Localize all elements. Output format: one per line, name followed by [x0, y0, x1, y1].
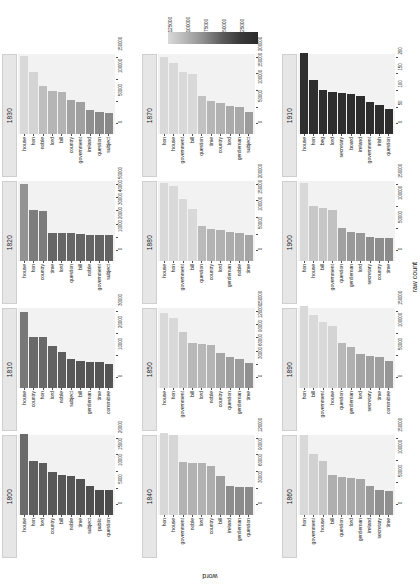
bar[interactable]	[319, 461, 327, 515]
bar[interactable]	[86, 486, 94, 515]
bar[interactable]	[207, 101, 215, 134]
bar[interactable]	[29, 337, 37, 388]
bar[interactable]	[385, 109, 393, 134]
bar[interactable]	[328, 92, 336, 134]
bar[interactable]	[198, 96, 206, 134]
bar[interactable]	[86, 235, 94, 261]
bar[interactable]	[356, 96, 364, 134]
bar[interactable]	[375, 105, 383, 134]
bar[interactable]	[309, 315, 317, 388]
bar[interactable]	[245, 235, 253, 261]
bar[interactable]	[338, 93, 346, 134]
bar[interactable]	[76, 102, 84, 134]
bar[interactable]	[48, 346, 56, 388]
bar[interactable]	[300, 53, 308, 134]
bar[interactable]	[86, 362, 94, 388]
bar[interactable]	[20, 312, 28, 388]
bar[interactable]	[245, 487, 253, 515]
bar[interactable]	[29, 72, 37, 134]
bar[interactable]	[347, 347, 355, 388]
bar[interactable]	[328, 210, 336, 261]
bar[interactable]	[58, 352, 66, 388]
bar[interactable]	[188, 343, 196, 388]
bar[interactable]	[366, 356, 374, 388]
bar[interactable]	[235, 107, 243, 134]
bar[interactable]	[385, 361, 393, 388]
bar[interactable]	[300, 183, 308, 261]
bar[interactable]	[309, 206, 317, 261]
bar[interactable]	[67, 233, 75, 261]
bar[interactable]	[235, 487, 243, 515]
bar[interactable]	[235, 233, 243, 261]
bar[interactable]	[235, 359, 243, 388]
bar[interactable]	[347, 478, 355, 515]
bar[interactable]	[385, 491, 393, 515]
bar[interactable]	[226, 357, 234, 388]
bar[interactable]	[29, 210, 37, 261]
bar[interactable]	[169, 63, 177, 134]
bar[interactable]	[39, 211, 47, 261]
bar[interactable]	[385, 238, 393, 261]
bar[interactable]	[58, 92, 66, 134]
bar[interactable]	[328, 326, 336, 388]
bar[interactable]	[338, 343, 346, 388]
bar[interactable]	[309, 454, 317, 515]
bar[interactable]	[207, 345, 215, 388]
bar[interactable]	[319, 90, 327, 134]
bar[interactable]	[48, 472, 56, 515]
bar[interactable]	[48, 233, 56, 261]
bar[interactable]	[226, 106, 234, 134]
bar[interactable]	[169, 186, 177, 261]
bar[interactable]	[245, 363, 253, 388]
bar[interactable]	[198, 463, 206, 515]
bar[interactable]	[198, 226, 206, 261]
bar[interactable]	[226, 486, 234, 515]
bar[interactable]	[366, 486, 374, 515]
bar[interactable]	[198, 344, 206, 388]
bar[interactable]	[105, 490, 113, 515]
bar[interactable]	[319, 322, 327, 388]
bar[interactable]	[366, 237, 374, 261]
bar[interactable]	[366, 102, 374, 134]
bar[interactable]	[58, 475, 66, 515]
bar[interactable]	[347, 232, 355, 261]
bar[interactable]	[160, 57, 168, 134]
bar[interactable]	[207, 466, 215, 515]
bar[interactable]	[179, 199, 187, 261]
bar[interactable]	[76, 234, 84, 261]
bar[interactable]	[188, 74, 196, 134]
bar[interactable]	[67, 100, 75, 134]
bar[interactable]	[375, 490, 383, 515]
bar[interactable]	[105, 364, 113, 388]
bar[interactable]	[309, 80, 317, 135]
bar[interactable]	[160, 313, 168, 388]
bar[interactable]	[169, 318, 177, 388]
bar[interactable]	[188, 209, 196, 261]
bar[interactable]	[95, 112, 103, 134]
bar[interactable]	[39, 86, 47, 134]
bar[interactable]	[375, 238, 383, 261]
bar[interactable]	[160, 183, 168, 261]
bar[interactable]	[20, 184, 28, 261]
bar[interactable]	[338, 228, 346, 261]
bar[interactable]	[338, 477, 346, 515]
bar[interactable]	[216, 230, 224, 261]
bar[interactable]	[356, 233, 364, 261]
bar[interactable]	[245, 112, 253, 135]
bar[interactable]	[39, 463, 47, 515]
bar[interactable]	[48, 91, 56, 134]
bar[interactable]	[105, 235, 113, 261]
bar[interactable]	[20, 56, 28, 134]
bar[interactable]	[39, 337, 47, 388]
bar[interactable]	[179, 72, 187, 134]
bar[interactable]	[95, 235, 103, 261]
bar[interactable]	[67, 359, 75, 388]
bar[interactable]	[356, 354, 364, 388]
bar[interactable]	[347, 94, 355, 134]
bar[interactable]	[207, 229, 215, 261]
bar[interactable]	[328, 475, 336, 515]
bar[interactable]	[58, 233, 66, 261]
bar[interactable]	[20, 434, 28, 515]
bar[interactable]	[300, 306, 308, 388]
bar[interactable]	[95, 490, 103, 515]
